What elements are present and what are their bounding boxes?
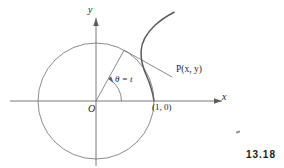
y-axis-arrowhead <box>93 18 99 26</box>
unit-point-label: (1, 0) <box>152 103 172 112</box>
figure-canvas <box>0 0 284 168</box>
y-axis-label: y <box>88 5 92 15</box>
x-axis <box>10 98 222 104</box>
involute-curve <box>141 12 175 101</box>
figure-number-label: 13.18 <box>246 149 276 160</box>
x-axis-arrowhead <box>214 98 222 104</box>
y-axis <box>93 18 99 166</box>
origin-label: O <box>88 104 95 114</box>
angle-label: θ = t <box>115 75 133 84</box>
involute-figure: y x O (1, 0) θ = t P(x, y) 13.18 <box>0 0 284 168</box>
point-p-label: P(x, y) <box>176 65 202 75</box>
x-axis-label: x <box>222 92 226 102</box>
